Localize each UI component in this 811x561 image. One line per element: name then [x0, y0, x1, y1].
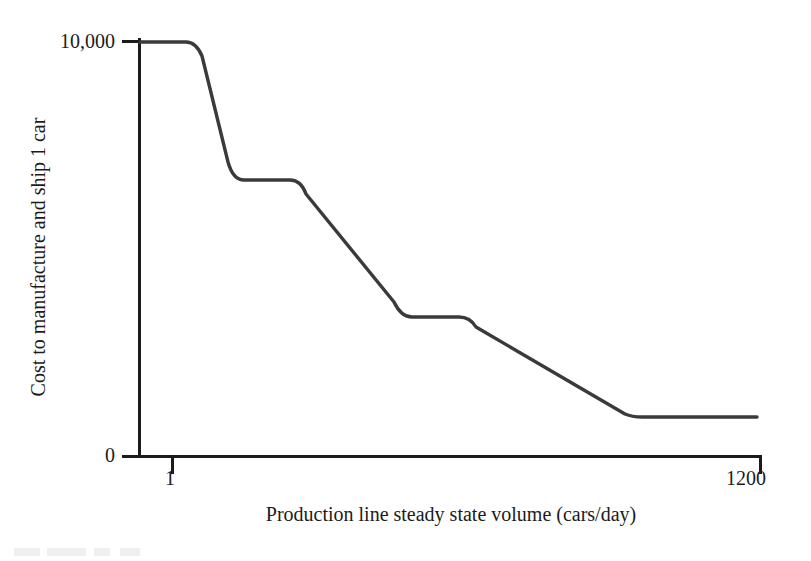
- axis-lines: [122, 38, 762, 457]
- x-tick-label-1: 1: [165, 468, 175, 488]
- y-tick-label-10000: 10,000: [60, 31, 115, 51]
- x-tick-label-1200: 1200: [726, 468, 766, 488]
- y-tick-label-0: 0: [105, 445, 115, 465]
- y-axis-title: Cost to manufacture and ship 1 car: [21, 47, 55, 467]
- x-axis-title: Production line steady state volume (car…: [139, 503, 763, 526]
- chart-figure: 10,000 0 1 1200 Cost to manufacture and …: [0, 0, 811, 561]
- plot-canvas: [0, 0, 811, 561]
- page-scan-artifact: [14, 548, 140, 556]
- cost-curve: [140, 42, 757, 417]
- axis-ticks: [122, 42, 761, 475]
